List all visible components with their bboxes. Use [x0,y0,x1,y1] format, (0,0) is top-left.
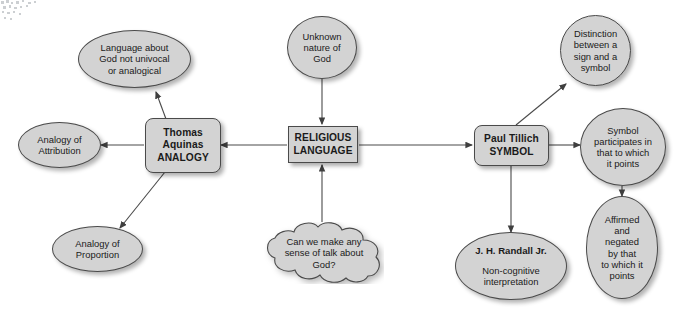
node-randall-title: J. H. Randall Jr. [475,245,546,256]
node-analogy-of-attribution-label: Analogy of Attribution [19,134,100,156]
node-unknown-nature-of-god-label: Unknown nature of God [288,31,356,64]
node-thomas-aquinas-label: Thomas Aquinas ANALOGY [146,127,220,163]
node-randall-subtitle: Non-cognitive interpretation [482,265,539,287]
node-religious-language[interactable]: RELIGIOUS LANGUAGE [288,126,358,163]
edge-aquinas-to-language-about-god [156,92,166,119]
node-distinction-sign-symbol[interactable]: Distinction between a sign and a symbol [560,15,631,86]
node-symbol-participates[interactable]: Symbol participates in that to which it … [580,108,666,186]
node-religious-language-label: RELIGIOUS LANGUAGE [289,132,357,156]
node-language-about-god-label: Language about God not univocal or analo… [79,42,190,75]
node-paul-tillich[interactable]: Paul Tillich SYMBOL [474,125,549,166]
edge-tillich-to-distinction [516,84,566,125]
node-analogy-of-proportion[interactable]: Analogy of Proportion [52,226,143,272]
node-thomas-aquinas[interactable]: Thomas Aquinas ANALOGY [145,118,221,173]
node-unknown-nature-of-god[interactable]: Unknown nature of God [287,16,357,79]
concept-map-diagram: Language about God not univocal or analo… [0,0,689,315]
node-distinction-sign-symbol-label: Distinction between a sign and a symbol [561,28,630,72]
node-analogy-of-attribution[interactable]: Analogy of Attribution [18,122,101,168]
node-language-about-god[interactable]: Language about God not univocal or analo… [78,30,191,88]
node-paul-tillich-label: Paul Tillich SYMBOL [475,133,548,157]
node-affirmed-and-negated[interactable]: Affirmed and negated by that to which it… [586,196,658,299]
node-can-we-make-sense-label: Can we make any sense of talk about God? [264,236,384,269]
node-affirmed-and-negated-label: Affirmed and negated by that to which it… [587,214,657,281]
scan-noise-artifact [0,0,44,22]
node-analogy-of-proportion-label: Analogy of Proportion [53,238,142,260]
node-randall[interactable]: J. H. Randall Jr. Non-cognitive interpre… [455,232,567,300]
node-symbol-participates-label: Symbol participates in that to which it … [581,125,665,169]
edge-aquinas-to-analogy-proportion [120,172,165,228]
node-can-we-make-sense[interactable]: Can we make any sense of talk about God? [264,222,384,284]
